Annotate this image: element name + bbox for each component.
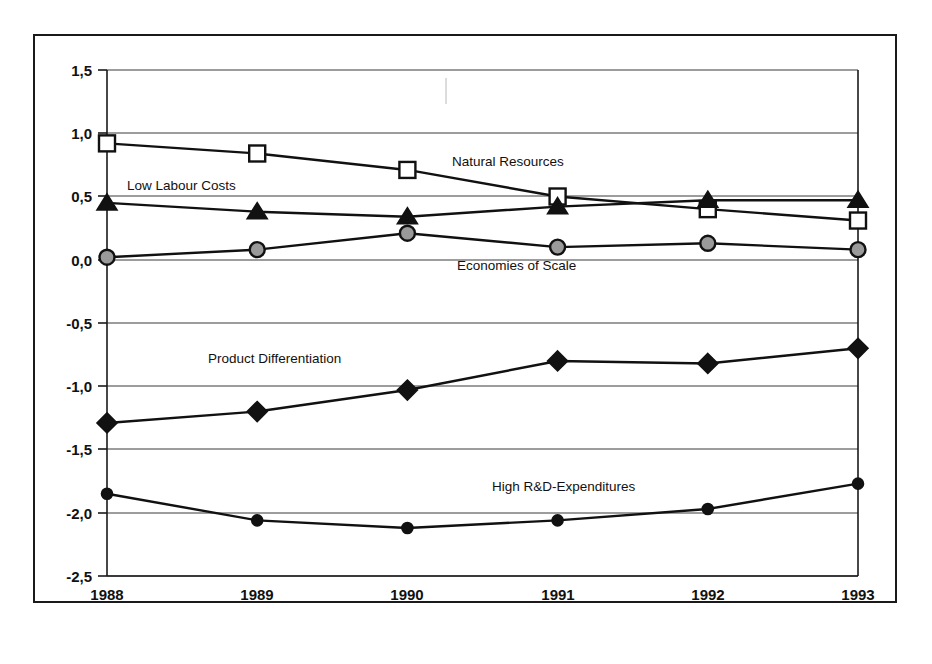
series-line-high-r-d-expenditures	[107, 484, 858, 528]
series-label-natural-resources: Natural Resources	[452, 154, 564, 169]
ytick-label-0-5: 0,5	[71, 188, 92, 205]
x-axis-tick-labels: 1988 1989 1990 1991 1992 1993	[90, 586, 874, 603]
series-label-high-rd-expenditures: High R&D-Expenditures	[492, 479, 636, 494]
marker-product-differentiation-1992	[698, 353, 718, 373]
ytick-label-neg-1-5: -1,5	[66, 441, 92, 458]
xtick-label-1993: 1993	[841, 586, 874, 603]
marker-high-r-d-expenditures-1991	[552, 515, 563, 526]
series-label-low-labour-costs: Low Labour Costs	[127, 178, 236, 193]
marker-product-differentiation-1989	[247, 402, 267, 422]
marker-economies-of-scale-1990	[400, 226, 415, 241]
series-high-r-d-expenditures	[102, 478, 864, 533]
marker-natural-resources-1993	[850, 213, 866, 229]
series-line-low-labour-costs	[107, 200, 858, 216]
xtick-label-1988: 1988	[90, 586, 123, 603]
marker-economies-of-scale-1992	[700, 236, 715, 251]
marker-economies-of-scale-1991	[550, 240, 565, 255]
marker-economies-of-scale-1988	[100, 250, 115, 265]
marker-high-r-d-expenditures-1992	[702, 503, 713, 514]
ytick-label-1-0: 1,0	[71, 125, 92, 142]
series-line-economies-of-scale	[107, 233, 858, 257]
ytick-label-1-5: 1,5	[71, 62, 92, 79]
series-layer	[97, 135, 868, 533]
marker-economies-of-scale-1989	[250, 242, 265, 257]
series-label-economies-of-scale: Economies of Scale	[457, 258, 576, 273]
xtick-label-1991: 1991	[541, 586, 574, 603]
marker-product-differentiation-1993	[848, 338, 868, 358]
marker-high-r-d-expenditures-1988	[102, 488, 113, 499]
xtick-label-1990: 1990	[390, 586, 423, 603]
marker-natural-resources-1988	[99, 135, 115, 151]
marker-product-differentiation-1991	[548, 351, 568, 371]
ytick-label-neg-0-5: -0,5	[66, 315, 92, 332]
marker-high-r-d-expenditures-1989	[252, 515, 263, 526]
marker-high-r-d-expenditures-1993	[853, 478, 864, 489]
chart-figure: 1,5 1,0 0,5 0,0 -0,5 -1,0 -1,5 -2,0 -2,5…	[0, 0, 932, 664]
xtick-label-1992: 1992	[691, 586, 724, 603]
gridlines	[107, 70, 858, 576]
ytick-label-0-0: 0,0	[71, 252, 92, 269]
xtick-label-1989: 1989	[240, 586, 273, 603]
ytick-label-neg-2-5: -2,5	[66, 568, 92, 585]
marker-product-differentiation-1988	[97, 413, 117, 433]
ytick-label-neg-1-0: -1,0	[66, 378, 92, 395]
marker-natural-resources-1990	[399, 162, 415, 178]
marker-high-r-d-expenditures-1990	[402, 522, 413, 533]
y-axis-tick-labels: 1,5 1,0 0,5 0,0 -0,5 -1,0 -1,5 -2,0 -2,5	[66, 62, 92, 585]
marker-natural-resources-1989	[249, 145, 265, 161]
series-label-product-differentiation: Product Differentiation	[208, 351, 341, 366]
line-chart-plot: 1,5 1,0 0,5 0,0 -0,5 -1,0 -1,5 -2,0 -2,5…	[0, 0, 932, 664]
marker-economies-of-scale-1993	[851, 242, 866, 257]
marker-product-differentiation-1990	[397, 380, 417, 400]
ytick-label-neg-2-0: -2,0	[66, 505, 92, 522]
